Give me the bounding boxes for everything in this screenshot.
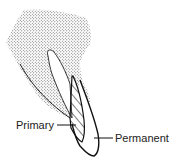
label-primary: Primary bbox=[16, 120, 54, 131]
label-permanent: Permanent bbox=[115, 133, 169, 144]
